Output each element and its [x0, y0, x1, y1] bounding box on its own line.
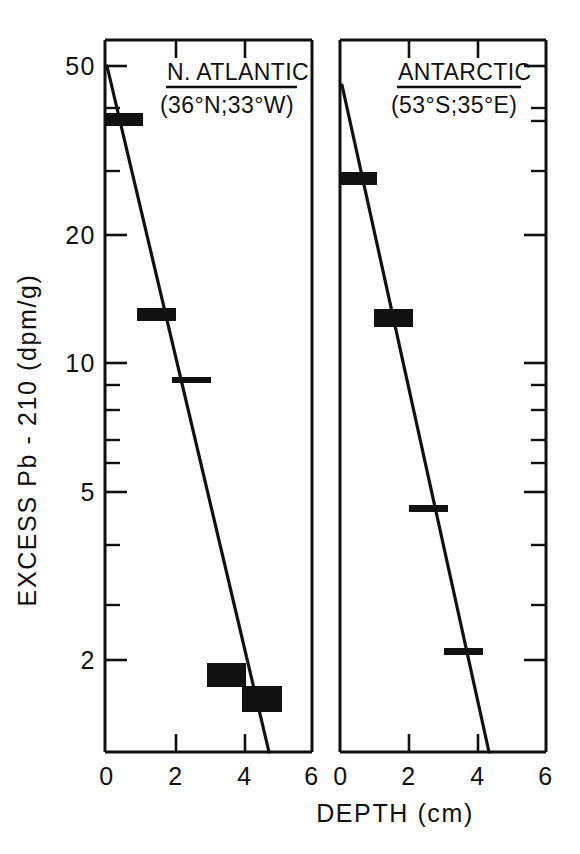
panel-antarctic: ANTARCTIC (53°S;35°E) [340, 40, 546, 752]
y-tick-label: 50 [65, 52, 96, 80]
x-tick-label: 6 [304, 762, 319, 790]
x-tick-label: 4 [470, 762, 485, 790]
panel-left-y-minor-ticks [105, 108, 120, 605]
datapoint [374, 309, 413, 327]
pb210-depth-chart: N. ATLANTIC (36°N;33°W) [0, 0, 580, 854]
x-tick-label: 2 [401, 762, 416, 790]
y-tick-labels: 50 20 10 5 2 [65, 52, 96, 674]
panel-right-frame [340, 40, 546, 752]
panel-left-fit-line [107, 66, 269, 752]
datapoint [242, 686, 282, 712]
panel-left-x-bottom-ticks [176, 734, 245, 752]
x-tick-label: 0 [99, 762, 114, 790]
panel-left-subtitle: (36°N;33°W) [160, 92, 294, 118]
x-tick-label: 0 [333, 762, 348, 790]
datapoint [207, 663, 246, 687]
x-axis-title: DEPTH (cm) [316, 799, 474, 827]
datapoint [172, 377, 211, 383]
panel-right-datapoints [340, 172, 483, 655]
panel-right-subtitle: (53°S;35°E) [391, 92, 517, 118]
figure-root: N. ATLANTIC (36°N;33°W) [0, 0, 580, 854]
panel-right-y-major-ticks [524, 66, 546, 660]
panel-left-frame [105, 40, 312, 752]
panel-left-datapoints [105, 113, 282, 712]
y-tick-label: 2 [81, 646, 96, 674]
datapoint [444, 648, 483, 655]
x-tick-label: 6 [538, 762, 553, 790]
panel-north-atlantic: N. ATLANTIC (36°N;33°W) [105, 40, 312, 752]
datapoint [340, 172, 377, 185]
datapoint [105, 113, 143, 126]
panel-left-y-major-ticks [105, 66, 127, 660]
panel-right-x-bottom-ticks [409, 734, 478, 752]
y-tick-label: 5 [81, 478, 96, 506]
y-tick-label: 10 [65, 349, 96, 377]
panel-right-label: ANTARCTIC (53°S;35°E) [391, 59, 532, 118]
x-tick-label: 4 [237, 762, 252, 790]
panel-left-title: N. ATLANTIC [167, 59, 309, 85]
panel-right-x-top-ticks [409, 40, 478, 58]
datapoint [137, 308, 176, 321]
panel-left-label: N. ATLANTIC (36°N;33°W) [160, 59, 309, 118]
x-tick-labels-right: 0 2 4 6 [333, 762, 553, 790]
x-tick-labels-left: 0 2 4 6 [99, 762, 319, 790]
datapoint [409, 505, 448, 512]
panel-right-y-minor-ticks [531, 108, 546, 605]
panel-right-title: ANTARCTIC [398, 59, 532, 85]
x-tick-label: 2 [168, 762, 183, 790]
panel-left-x-top-ticks [176, 40, 245, 58]
y-axis-title: EXCESS Pb - 210 (dpm/g) [13, 274, 41, 607]
y-tick-label: 20 [65, 221, 96, 249]
